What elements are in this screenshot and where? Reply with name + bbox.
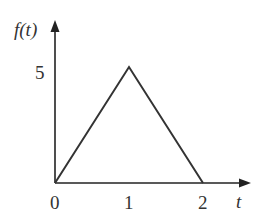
x-tick-2: 2: [198, 192, 208, 213]
signal-line: [55, 67, 203, 183]
y-axis-arrow-icon: [51, 20, 60, 32]
y-tick-5: 5: [35, 62, 45, 83]
x-axis-arrow-icon: [239, 179, 251, 188]
y-axis-label: f(t): [14, 19, 37, 41]
x-tick-1: 1: [124, 192, 134, 213]
x-axis-label: t: [236, 191, 242, 212]
x-tick-0: 0: [50, 192, 60, 213]
triangle-pulse-chart: f(t) 5 0 1 2 t: [0, 0, 269, 224]
